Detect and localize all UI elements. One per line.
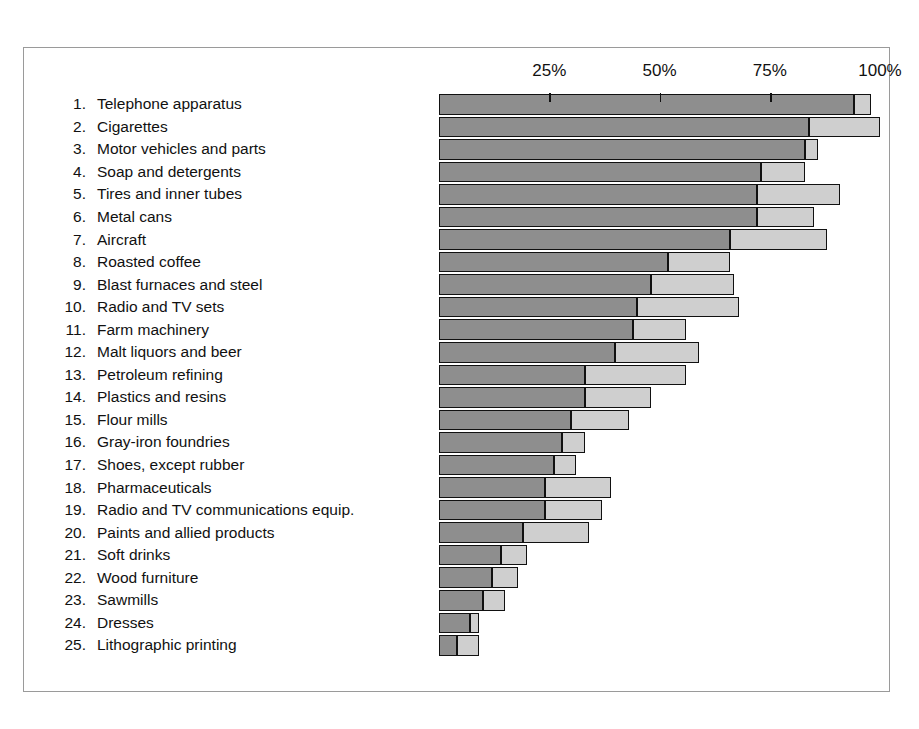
bar-row <box>416 318 886 341</box>
bar-segment-primary <box>439 567 492 588</box>
category-rank: 6. <box>54 208 86 226</box>
bar-row <box>416 386 886 409</box>
category-rank: 23. <box>54 591 86 609</box>
category-row: 23.Sawmills <box>24 589 393 612</box>
bar-row <box>416 138 886 161</box>
category-rank: 22. <box>54 569 86 587</box>
category-rank: 2. <box>54 118 86 136</box>
bar-segment-primary <box>439 500 545 521</box>
bar-segment-secondary <box>730 229 827 250</box>
category-label: Metal cans <box>97 208 172 226</box>
bar-segment-primary <box>439 162 761 183</box>
bar-segment-primary <box>439 365 585 386</box>
bar-row <box>416 273 886 296</box>
bar-row <box>416 116 886 139</box>
bar-segment-primary <box>439 455 554 476</box>
category-label: Shoes, except rubber <box>97 456 244 474</box>
category-label: Radio and TV communications equip. <box>97 501 354 519</box>
bar-segment-primary <box>439 410 571 431</box>
category-row: 15.Flour mills <box>24 409 393 432</box>
bar-row <box>416 544 886 567</box>
category-row: 2.Cigarettes <box>24 116 393 139</box>
bar-row <box>416 183 886 206</box>
category-row: 19.Radio and TV communications equip. <box>24 499 393 522</box>
category-rank: 10. <box>54 298 86 316</box>
bar-segment-secondary <box>571 410 628 431</box>
category-rank: 13. <box>54 366 86 384</box>
bar-segment-secondary <box>757 184 841 205</box>
bar-segment-primary <box>439 274 651 295</box>
bar-segment-secondary <box>805 139 818 160</box>
x-axis-tick-label-75: 75% <box>753 62 787 80</box>
category-rank: 20. <box>54 524 86 542</box>
category-label: Petroleum refining <box>97 366 223 384</box>
category-row: 1.Telephone apparatus <box>24 93 393 116</box>
bar-segment-primary <box>439 545 501 566</box>
category-rank: 19. <box>54 501 86 519</box>
category-row: 11.Farm machinery <box>24 318 393 341</box>
category-label: Telephone apparatus <box>97 95 242 113</box>
category-label: Gray-iron foundries <box>97 433 230 451</box>
bar-segment-primary <box>439 139 805 160</box>
category-label: Malt liquors and beer <box>97 343 242 361</box>
category-row: 9.Blast furnaces and steel <box>24 273 393 296</box>
category-label: Soap and detergents <box>97 163 241 181</box>
category-rank: 25. <box>54 636 86 654</box>
category-rank: 4. <box>54 163 86 181</box>
bar-segment-secondary <box>545 477 611 498</box>
category-label: Wood furniture <box>97 569 198 587</box>
bar-row <box>416 589 886 612</box>
bar-row <box>416 341 886 364</box>
category-label: Sawmills <box>97 591 158 609</box>
category-row: 14.Plastics and resins <box>24 386 393 409</box>
bar-segment-primary <box>439 613 470 634</box>
category-rank: 11. <box>54 321 86 339</box>
category-rank: 15. <box>54 411 86 429</box>
category-label: Blast furnaces and steel <box>97 276 262 294</box>
category-row: 8.Roasted coffee <box>24 251 393 274</box>
category-label: Dresses <box>97 614 154 632</box>
category-rank: 1. <box>54 95 86 113</box>
category-rank: 14. <box>54 388 86 406</box>
bar-segment-primary <box>439 319 633 340</box>
bar-segment-primary <box>439 229 730 250</box>
x-axis-tick-mark-75 <box>770 93 772 102</box>
bar-row <box>416 499 886 522</box>
category-row: 25.Lithographic printing <box>24 634 393 657</box>
category-rank: 9. <box>54 276 86 294</box>
category-rank: 17. <box>54 456 86 474</box>
category-rank: 21. <box>54 546 86 564</box>
category-label: Flour mills <box>97 411 168 429</box>
category-row: 12.Malt liquors and beer <box>24 341 393 364</box>
bar-segment-secondary <box>554 455 576 476</box>
bar-segment-primary <box>439 522 523 543</box>
bar-segment-secondary <box>457 635 479 656</box>
bar-segment-secondary <box>854 94 872 115</box>
category-rank: 16. <box>54 433 86 451</box>
bar-segment-secondary <box>757 207 814 228</box>
category-row: 16.Gray-iron foundries <box>24 431 393 454</box>
bar-row <box>416 228 886 251</box>
category-rank: 3. <box>54 140 86 158</box>
category-row: 7.Aircraft <box>24 228 393 251</box>
x-axis-tick-label-50: 50% <box>642 62 676 80</box>
bar-segment-primary <box>439 94 854 115</box>
category-row: 22.Wood furniture <box>24 566 393 589</box>
bar-segment-primary <box>439 117 809 138</box>
bar-segment-primary <box>439 297 637 318</box>
bar-segment-primary <box>439 342 615 363</box>
bar-segment-secondary <box>523 522 589 543</box>
category-row: 5.Tires and inner tubes <box>24 183 393 206</box>
category-rank: 8. <box>54 253 86 271</box>
bar-row <box>416 364 886 387</box>
category-rank: 12. <box>54 343 86 361</box>
category-label-column: 1.Telephone apparatus2.Cigarettes3.Motor… <box>24 93 393 657</box>
bar-row <box>416 431 886 454</box>
bar-segment-secondary <box>585 387 651 408</box>
category-rank: 18. <box>54 479 86 497</box>
bar-row <box>416 409 886 432</box>
x-axis-tick-label-25: 25% <box>532 62 566 80</box>
bar-segment-primary <box>439 590 483 611</box>
bar-segment-secondary <box>562 432 584 453</box>
bar-segment-secondary <box>637 297 738 318</box>
